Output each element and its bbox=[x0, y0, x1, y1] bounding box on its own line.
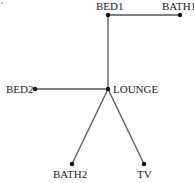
edge-lounge-tv bbox=[108, 89, 144, 164]
label-tv: TV bbox=[137, 168, 152, 180]
node-lounge bbox=[106, 87, 110, 91]
label-lounge: LOUNGE bbox=[113, 83, 158, 95]
label-bath1: BATH1 bbox=[162, 0, 194, 12]
node-bed1 bbox=[106, 13, 110, 17]
label-bed2: BED2 bbox=[6, 83, 34, 95]
node-tv bbox=[142, 162, 146, 166]
label-bed1: BED1 bbox=[96, 0, 124, 12]
node-bath2 bbox=[70, 162, 74, 166]
label-bath2: BATH2 bbox=[53, 168, 87, 180]
node-bath1 bbox=[178, 13, 182, 17]
edge-lounge-bath2 bbox=[72, 89, 108, 164]
room-connectivity-diagram: BED1BATH1LOUNGEBED2BATH2TV bbox=[0, 0, 194, 183]
corner-speck bbox=[1, 2, 3, 4]
